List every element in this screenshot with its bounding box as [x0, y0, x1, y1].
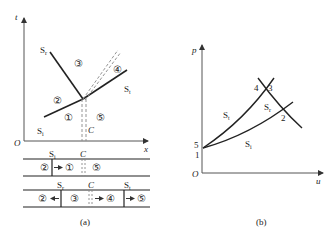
point-5-label: 5	[194, 140, 199, 150]
tube-before-region-5: ⑤	[92, 162, 101, 173]
t-axis-label: t	[15, 12, 18, 22]
tube-after-region-3: ③	[70, 193, 79, 204]
label-contact: C	[88, 125, 95, 135]
tube-before: Si C ② ① ⑤	[23, 149, 150, 176]
origin-label-b: O	[192, 169, 199, 179]
origin-label: O	[14, 138, 21, 148]
panel-a: t x O Sr St Si C ① ② ③ ④ ⑤ Si C	[14, 12, 150, 227]
tube-after-contact-label: C	[88, 180, 95, 190]
label-rarefaction: Sr	[40, 45, 47, 56]
point-4-label: 4	[254, 83, 259, 93]
p-axis-label: p	[191, 45, 197, 55]
panel-b: p u O St Sr Si 5 1 2 3 4 (b)	[191, 45, 323, 227]
caption-b: (b)	[256, 217, 267, 227]
label-curve-rarefaction: Sr	[264, 102, 271, 113]
point-1-label: 1	[195, 150, 200, 160]
tube-after-transmitted-label: St	[124, 180, 131, 191]
region-3: ③	[74, 58, 83, 69]
tube-after-rarefaction-label: Sr	[57, 180, 64, 191]
figure-canvas: t x O Sr St Si C ① ② ③ ④ ⑤ Si C	[0, 0, 336, 246]
tube-after-region-4: ④	[106, 193, 115, 204]
x-axis-label: x	[143, 144, 148, 154]
tube-before-region-2: ②	[40, 162, 49, 173]
region-4: ④	[113, 64, 122, 75]
tube-before-region-1: ①	[65, 162, 74, 173]
label-incident: Si	[37, 126, 44, 137]
label-curve-transmitted: St	[223, 110, 230, 121]
tube-before-shock-label: Si	[49, 149, 56, 160]
region-1: ①	[64, 112, 73, 123]
caption-a: (a)	[80, 217, 90, 227]
tube-after-region-2: ②	[38, 193, 47, 204]
tube-after-region-5: ⑤	[137, 193, 146, 204]
label-curve-incident: Si	[245, 139, 252, 150]
tube-after: Sr C St ② ③ ④ ⑤	[23, 180, 150, 207]
label-transmitted: St	[124, 84, 131, 95]
region-5: ⑤	[96, 112, 105, 123]
point-3-label: 3	[268, 83, 273, 93]
point-2-label: 2	[281, 113, 286, 123]
contact-line-upper-b	[85, 52, 121, 100]
region-2: ②	[53, 95, 62, 106]
transmitted-hugoniot-curve	[203, 78, 274, 148]
tube-before-contact-label: C	[80, 149, 87, 159]
u-axis-label: u	[316, 176, 321, 186]
